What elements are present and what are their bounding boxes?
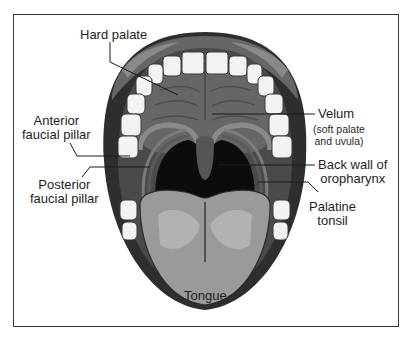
label-hard-palate: Hard palate (80, 28, 147, 42)
label-posterior-line-2: faucial pillar (30, 192, 99, 206)
label-palatine-1: Palatine (309, 200, 356, 214)
label-tongue: Tongue (184, 289, 227, 303)
label-velum-sub-1: (soft palate (313, 123, 365, 135)
label-velum-sub: (soft palate and uvula) (313, 123, 365, 147)
label-velum: Velum (318, 107, 354, 121)
label-posterior-line-1: Posterior (30, 178, 99, 192)
label-anterior-faucial-pillar: Anterior faucial pillar (22, 114, 91, 142)
label-back-wall-1: Back wall of (318, 158, 387, 172)
label-anterior-line-1: Anterior (22, 114, 91, 128)
label-back-wall-oropharynx: Back wall of oropharynx (318, 158, 387, 186)
label-palatine-tonsil: Palatine tonsil (309, 200, 356, 228)
label-posterior-faucial-pillar: Posterior faucial pillar (30, 178, 99, 206)
label-velum-sub-2: and uvula) (313, 135, 365, 147)
label-anterior-line-2: faucial pillar (22, 128, 91, 142)
label-palatine-2: tonsil (309, 214, 356, 228)
label-back-wall-2: oropharynx (318, 172, 387, 186)
